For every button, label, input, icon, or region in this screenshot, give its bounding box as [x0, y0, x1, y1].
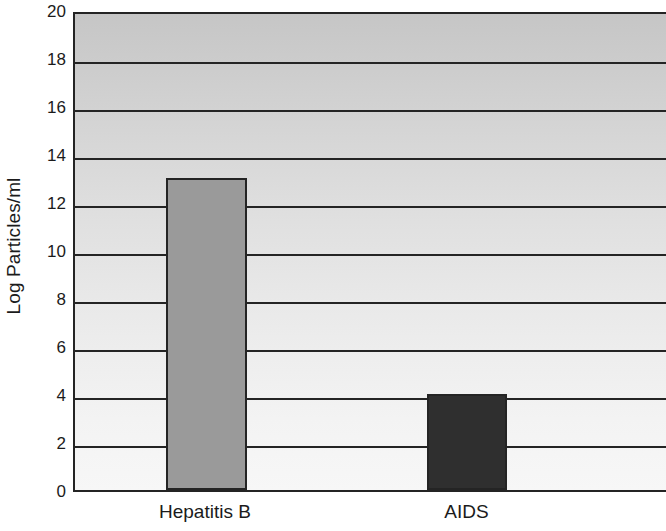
y-axis-tick-label: 10 — [28, 242, 66, 262]
x-axis-tick-label: AIDS — [444, 501, 488, 523]
y-axis-tick-label: 0 — [28, 482, 66, 502]
y-axis-tick-label: 12 — [28, 194, 66, 214]
y-axis-tick-label: 4 — [28, 386, 66, 406]
y-axis-tick-label: 14 — [28, 146, 66, 166]
bar-hepatitis-b — [166, 178, 248, 490]
y-axis-tick-label: 18 — [28, 50, 66, 70]
bars-layer — [75, 14, 666, 490]
plot-area — [73, 12, 666, 492]
x-axis-tick-labels: Hepatitis BAIDS — [73, 497, 666, 531]
y-axis-tick-label: 2 — [28, 434, 66, 454]
y-axis-title: Log Particles/ml — [0, 0, 28, 492]
y-axis-title-text: Log Particles/ml — [3, 178, 25, 315]
y-axis-tick-label: 20 — [28, 2, 66, 22]
y-axis-tick-labels: 02468101214161820 — [28, 12, 66, 492]
y-axis-tick-label: 8 — [28, 290, 66, 310]
y-axis-tick-label: 6 — [28, 338, 66, 358]
bar-aids — [427, 394, 508, 490]
bar-chart-figure: Log Particles/ml 02468101214161820 Hepat… — [0, 0, 666, 531]
y-axis-tick-label: 16 — [28, 98, 66, 118]
x-axis-tick-label: Hepatitis B — [159, 501, 251, 523]
